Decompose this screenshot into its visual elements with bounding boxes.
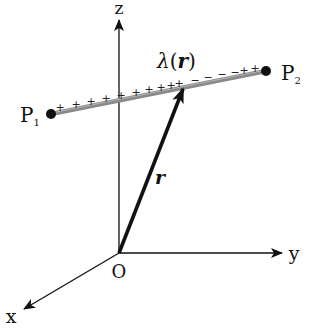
plus-sign: + [116, 89, 125, 102]
point-p2-letter: P [281, 61, 294, 85]
point-p2 [261, 66, 271, 76]
minus-sign: − [203, 71, 212, 84]
position-vector-r [119, 89, 183, 253]
plus-sign: + [71, 98, 80, 111]
point-p1 [46, 109, 56, 119]
origin-label: O [112, 261, 127, 282]
density-label: λ(r) [156, 49, 196, 73]
minus-sign: − [190, 74, 199, 87]
x-axis-label: x [6, 305, 17, 327]
plus-sign: + [55, 101, 64, 114]
plus-sign: + [86, 95, 95, 108]
y-axis-label: y [288, 242, 300, 264]
plus-sign: + [101, 92, 110, 105]
point-p2-label: P2 [281, 61, 301, 86]
point-p2-subscript: 2 [294, 75, 300, 86]
plus-sign: + [250, 62, 259, 75]
plus-sign: + [174, 77, 183, 90]
x-axis [24, 253, 119, 309]
plus-sign: + [144, 83, 153, 96]
density-close-paren: ) [188, 49, 196, 73]
minus-sign: − [230, 66, 239, 79]
z-axis-label: z [115, 0, 124, 18]
point-p1-letter: P [20, 103, 33, 127]
position-vector-label: r [155, 166, 167, 188]
plus-sign: + [156, 81, 165, 94]
point-p1-subscript: 1 [33, 117, 39, 128]
point-p1-label: P1 [20, 103, 40, 128]
diagram-canvas: z y x O + + + + + + + + + + − − − − + + … [0, 0, 310, 334]
density-open-paren: ( [170, 49, 178, 73]
minus-sign: − [217, 68, 226, 81]
lambda-symbol: λ [156, 49, 170, 73]
plus-sign: + [131, 86, 140, 99]
plus-sign: + [239, 64, 248, 77]
